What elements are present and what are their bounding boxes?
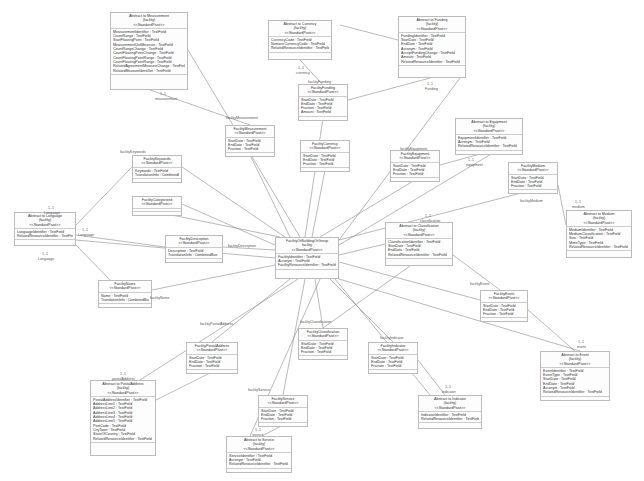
class-attributes: Description : TextFieldTranslationInfo :… bbox=[166, 248, 222, 259]
class-header: FacilityName<<StandardPivot>> bbox=[99, 281, 151, 293]
class-box-medium[interactable]: Abstract to Medium(facility)<<StandardPi… bbox=[566, 210, 632, 258]
class-operations bbox=[166, 258, 222, 262]
role-label: classification bbox=[420, 219, 440, 223]
class-attribute: RelatedResourceIdentifier : TextField bbox=[388, 253, 450, 257]
class-header: FacilityMeasurement<<StandardPivot>> bbox=[226, 126, 274, 138]
class-box-equipment[interactable]: Abstract to Equipment(facility)<<Standar… bbox=[455, 118, 523, 155]
class-box-service[interactable]: Abstract to Service(facility)<<StandardP… bbox=[226, 436, 292, 473]
class-box-central[interactable]: FacilityOrBuildingOrGroupfacility<<Stand… bbox=[275, 237, 339, 279]
class-header: FacilityService<<StandardPivot>> bbox=[259, 396, 307, 408]
class-operations bbox=[227, 468, 291, 472]
class-box-facilityequipment[interactable]: FacilityEquipment<<StandardPivot>>StartD… bbox=[390, 150, 440, 182]
class-header: FacilityClassification<<StandardPivot>> bbox=[299, 329, 347, 341]
class-attribute: RelatedResourceIdentifier : TextField bbox=[458, 144, 520, 148]
class-box-postaladdress[interactable]: Abstract to PostalAddress(facility)<<Sta… bbox=[90, 380, 156, 456]
class-box-facilityindicator[interactable]: FacilityIndicator<<StandardPivot>>StartD… bbox=[368, 342, 418, 374]
class-box-classification[interactable]: Abstract to Classification(facility)<<St… bbox=[385, 222, 453, 266]
class-stereotype: <<StandardPivot>> bbox=[542, 362, 608, 366]
class-box-facilitypostaladdress[interactable]: FacilityPostalAddress<<StandardPivot>>St… bbox=[186, 342, 238, 374]
class-box-facilitycurrency[interactable]: FacilityCurrency<<StandardPivot>>StartDa… bbox=[300, 140, 350, 172]
class-stereotype: <<StandardPivot>> bbox=[16, 223, 74, 227]
class-attributes: FundingIdentifier : TextFieldStartDate :… bbox=[399, 33, 465, 65]
class-header: Abstract to Classification(facility)<<St… bbox=[386, 223, 452, 239]
class-stereotype: <<StandardPivot>> bbox=[482, 296, 526, 300]
class-attributes: StartDate : TextFieldEndDate : TextField… bbox=[226, 138, 274, 153]
role-label: measurement bbox=[155, 97, 177, 101]
class-attributes: StartDate : TextFieldEndDate : TextField… bbox=[369, 355, 417, 370]
class-attribute: RelatedResourceIdentifier : TextField bbox=[421, 417, 479, 421]
role-label: Language bbox=[44, 211, 60, 215]
class-attribute: Fraction : TextField bbox=[371, 364, 415, 368]
class-box-measurement[interactable]: Abstract to Measurement(facility)<<Stand… bbox=[110, 12, 188, 90]
class-attribute: TranslationInfo : CombinedBox bbox=[135, 173, 179, 177]
role-label: postalAddress bbox=[112, 377, 135, 381]
role-label: facilityDescription bbox=[228, 244, 256, 248]
class-operations bbox=[399, 65, 465, 69]
class-stereotype: <<StandardPivot>> bbox=[392, 156, 438, 160]
class-attribute: RelatedResourceIdentifier : TextField bbox=[17, 234, 73, 238]
class-stereotype: <<StandardPivot>> bbox=[300, 334, 346, 338]
role-label: facilityName bbox=[150, 296, 170, 300]
class-attribute: Fraction : TextField bbox=[303, 162, 347, 166]
class-box-facilitydescription[interactable]: FacilityDescription<<StandardPivot>>Desc… bbox=[165, 235, 223, 263]
class-header: FacilityFunding<<StandardPivot>> bbox=[299, 85, 347, 97]
class-attribute: RelatedResourceIdentifier : TextField bbox=[271, 46, 329, 50]
role-label: facilityFunding bbox=[308, 80, 331, 84]
class-attributes: EventIdentifier : TextFieldEventType : T… bbox=[541, 368, 609, 396]
class-operations bbox=[99, 303, 151, 307]
class-header: FacilityDescription<<StandardPivot>> bbox=[166, 236, 222, 248]
class-attribute: Fraction : TextField bbox=[301, 350, 345, 354]
class-attributes: MediumIdentifier : TextFieldMediumClassi… bbox=[567, 227, 631, 250]
multiplicity-label: 1..1 bbox=[468, 158, 474, 162]
class-attribute: RelatedResourceIdentifier : TextField bbox=[229, 462, 289, 466]
class-attributes: StartDate : TextFieldEndDate : TextField… bbox=[509, 175, 557, 190]
class-box-language[interactable]: Abstract to Language(facility)<<Standard… bbox=[14, 212, 76, 246]
class-stereotype: <<StandardPivot>> bbox=[100, 286, 150, 290]
class-box-facilitymeasurement[interactable]: FacilityMeasurement<<StandardPivot>>Star… bbox=[225, 125, 275, 157]
class-operations bbox=[187, 369, 237, 373]
class-box-indicator[interactable]: Abstract to Indicator(facility)<<Standar… bbox=[418, 395, 482, 429]
class-attribute: TranslationInfo : CombinedBox bbox=[168, 253, 220, 257]
class-box-facilitycategorized[interactable]: FacilityCategorized<<StandardPivot>> bbox=[132, 196, 182, 216]
class-attributes: StartDate : TextFieldEndDate : TextField… bbox=[187, 355, 237, 370]
class-operations bbox=[269, 52, 331, 56]
class-header: Abstract to Measurement(facility)<<Stand… bbox=[111, 13, 187, 29]
class-attributes: EquipmentIdentifier : TextFieldAcronym :… bbox=[456, 135, 522, 150]
class-operations bbox=[541, 396, 609, 400]
class-box-funding[interactable]: Abstract to Funding(facility)<<StandardP… bbox=[398, 16, 466, 78]
role-label: facilityEquipment bbox=[400, 147, 427, 151]
class-attribute: Fraction : TextField bbox=[228, 147, 272, 151]
class-box-facilitykeywords[interactable]: FacilityKeywords<<StandardPivot>>Keyword… bbox=[132, 155, 182, 183]
class-box-facilityfunding[interactable]: FacilityFunding<<StandardPivot>>StartDat… bbox=[298, 84, 348, 121]
class-box-event[interactable]: Abstract to Event(facility)<<StandardPiv… bbox=[540, 351, 610, 401]
class-operations bbox=[299, 355, 347, 359]
class-attribute: Amount : TextField bbox=[301, 110, 345, 114]
class-operations bbox=[15, 239, 75, 243]
class-stereotype: <<StandardPivot>> bbox=[568, 221, 630, 225]
class-attributes: IndicatorIdentifier : TextFieldRelatedRe… bbox=[419, 412, 481, 423]
class-header: Abstract to Service(facility)<<StandardP… bbox=[227, 437, 291, 453]
class-box-facilityservice[interactable]: FacilityService<<StandardPivot>>StartDat… bbox=[258, 395, 308, 427]
class-stereotype: <<StandardPivot>> bbox=[270, 31, 330, 35]
role-label: facilityClassification bbox=[300, 320, 331, 324]
class-operations bbox=[276, 269, 338, 273]
class-header: FacilityCategorized<<StandardPivot>> bbox=[133, 197, 181, 209]
class-header: Abstract to Indicator(facility)<<Standar… bbox=[419, 396, 481, 412]
class-header: FacilityEquipment<<StandardPivot>> bbox=[391, 151, 439, 163]
role-label: facilityService bbox=[248, 388, 270, 392]
class-attribute: RelatedResourceIdentifier : TextField bbox=[543, 390, 607, 394]
class-stereotype: <<StandardPivot>> bbox=[227, 131, 273, 135]
uml-diagram-canvas: Abstract to Measurement(facility)<<Stand… bbox=[0, 0, 644, 481]
class-attributes: ClassificationIdentifier : TextFieldStar… bbox=[386, 239, 452, 258]
role-label: equipment bbox=[466, 163, 483, 167]
class-box-facilityclassification[interactable]: FacilityClassification<<StandardPivot>>S… bbox=[298, 328, 348, 360]
role-label: facilityMeasurement bbox=[226, 116, 258, 120]
class-box-facilitymedium[interactable]: FacilityMedium<<StandardPivot>>StartDate… bbox=[508, 162, 558, 194]
role-label: facilityPostalAddress bbox=[200, 322, 233, 326]
multiplicity-label: 1..1 bbox=[427, 82, 433, 86]
class-header: FacilityIndicator<<StandardPivot>> bbox=[369, 343, 417, 355]
class-box-currency[interactable]: Abstract to Currency(facility)<<Standard… bbox=[268, 20, 332, 60]
class-box-facilityevent[interactable]: FacilityEvent<<StandardPivot>>StartDate … bbox=[480, 290, 528, 322]
class-attribute: FacilityResourceIdentifier : TextField bbox=[278, 263, 336, 267]
class-box-facilityname[interactable]: FacilityName<<StandardPivot>>Name : Text… bbox=[98, 280, 152, 308]
